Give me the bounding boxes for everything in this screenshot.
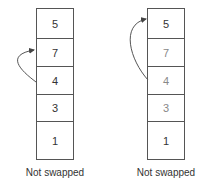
right-arrow	[130, 19, 148, 80]
left-array-stack: 5 7 4 3 1	[36, 8, 74, 160]
array-cell: 1	[37, 122, 73, 159]
left-caption: Not swapped	[10, 167, 100, 178]
left-arrow	[18, 50, 36, 82]
array-cell: 3	[37, 95, 73, 122]
array-cell: 4	[37, 67, 73, 95]
array-cell: 7	[148, 39, 184, 67]
array-cell: 4	[148, 67, 184, 95]
array-cell: 3	[148, 95, 184, 122]
right-caption: Not swapped	[121, 167, 199, 178]
array-cell: 5	[148, 9, 184, 39]
array-cell: 7	[37, 39, 73, 67]
array-cell: 5	[37, 9, 73, 39]
array-cell: 1	[148, 122, 184, 159]
right-array-stack: 5 7 4 3 1	[147, 8, 185, 160]
